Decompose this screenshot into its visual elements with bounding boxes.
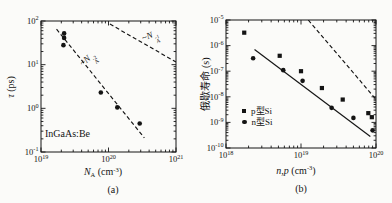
legend-item-n-type-si: n型Si (242, 117, 273, 128)
plot-b-ylabel: 俄歇寿命 (s) (197, 57, 212, 110)
svg-text:10-5: 10-5 (210, 13, 224, 25)
svg-text:1018: 1018 (219, 149, 234, 161)
plot-a-sample-annotation: InGaAs:Be (45, 128, 90, 139)
plot-a-xlabel: NA (cm-3) (84, 166, 122, 179)
plot-b-xlabel: n,p (cm-3) (276, 164, 315, 175)
guide-line-dashed (57, 29, 145, 138)
svg-text:1020: 1020 (101, 153, 116, 165)
plot-a-ylabel: τ (ps) (5, 76, 16, 98)
plot-b-legend: p型Si n型Si (242, 106, 273, 127)
legend-label: p型Si (251, 106, 272, 117)
svg-text:1020: 1020 (369, 149, 384, 161)
guide-line-dashed (308, 20, 375, 99)
guide-line-dashed (110, 24, 176, 62)
svg-text:10-7: 10-7 (210, 65, 224, 77)
svg-text:1021: 1021 (169, 153, 184, 165)
tick-labels: 10181019102010-1010-910-810-710-610-5 (207, 13, 384, 160)
circle-marker-icon (242, 120, 247, 125)
plot-a-caption: (a) (107, 184, 118, 195)
plot-b-caption: (b) (295, 183, 307, 194)
svg-text:10-6: 10-6 (210, 39, 224, 51)
legend-item-p-type-si: p型Si (242, 106, 273, 117)
svg-text:100: 100 (27, 102, 39, 114)
svg-text:1019: 1019 (294, 149, 309, 161)
figure-auger-lifetime-panels: 10191020102110-1100101102 10181019102010… (0, 0, 392, 203)
svg-text:102: 102 (27, 14, 39, 26)
square-marker-icon (242, 109, 246, 113)
svg-text:10-9: 10-9 (210, 116, 224, 128)
svg-text:1019: 1019 (34, 153, 49, 165)
svg-text:10-8: 10-8 (210, 90, 224, 102)
legend-label: n型Si (252, 117, 273, 128)
series-InGaAs:Be lifetime (61, 31, 142, 126)
svg-text:101: 101 (27, 58, 39, 70)
